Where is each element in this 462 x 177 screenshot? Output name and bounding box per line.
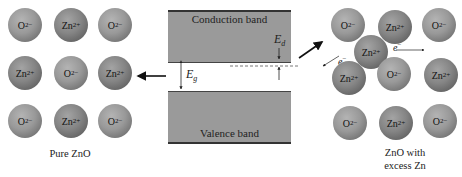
ion-charge: 2+ xyxy=(443,71,450,79)
ion-symbol: Zn xyxy=(386,22,397,33)
oxygen-ion: O2− xyxy=(377,57,411,91)
ion-charge: 2− xyxy=(71,69,78,77)
zinc-ion: Zn2+ xyxy=(379,106,413,140)
donor-level-symbol: Ed xyxy=(274,32,285,48)
ion-charge: 2− xyxy=(440,117,447,125)
ion-symbol: O xyxy=(387,69,394,80)
ion-charge: 2+ xyxy=(73,117,80,125)
ion-symbol: Zn xyxy=(362,47,373,58)
ion-symbol: O xyxy=(432,20,439,31)
ion-symbol: O xyxy=(64,68,71,79)
oxygen-ion: O2− xyxy=(98,104,132,138)
oxygen-ion: O2− xyxy=(331,8,365,42)
ion-charge: 2− xyxy=(348,21,355,29)
ion-charge: 2+ xyxy=(398,119,405,127)
ion-charge: 2− xyxy=(350,119,357,127)
ion-charge: 2+ xyxy=(397,23,404,31)
ion-symbol: O xyxy=(108,20,115,31)
ion-symbol: Zn xyxy=(387,118,398,129)
ion-symbol: Zn xyxy=(62,20,73,31)
ion-charge: 2− xyxy=(25,21,32,29)
caption-line-1: ZnO with xyxy=(360,146,450,159)
zinc-ion: Zn2+ xyxy=(8,56,42,90)
ion-symbol: Zn xyxy=(62,116,73,127)
ion-symbol: O xyxy=(343,118,350,129)
oxygen-ion: O2− xyxy=(98,8,132,42)
ion-symbol: Zn xyxy=(106,68,117,79)
oxygen-ion: O2− xyxy=(333,106,367,140)
zinc-ion: Zn2+ xyxy=(54,104,88,138)
zinc-ion: Zn2+ xyxy=(98,56,132,90)
ion-symbol: O xyxy=(18,20,25,31)
ion-charge: 2+ xyxy=(117,69,124,77)
ion-charge: 2+ xyxy=(373,48,380,56)
ion-symbol: O xyxy=(108,116,115,127)
oxygen-ion: O2− xyxy=(8,8,42,42)
excess-zn-caption: ZnO with excess Zn xyxy=(360,146,450,172)
ion-charge: 2+ xyxy=(27,69,34,77)
ion-charge: 2− xyxy=(25,117,32,125)
zinc-ion: Zn2+ xyxy=(378,10,412,44)
ion-charge: 2+ xyxy=(73,21,80,29)
oxygen-ion: O2− xyxy=(423,104,457,138)
oxygen-ion: O2− xyxy=(54,56,88,90)
ion-symbol: Zn xyxy=(16,68,27,79)
ion-charge: 2− xyxy=(394,70,401,78)
ion-symbol: O xyxy=(18,116,25,127)
ion-symbol: O xyxy=(433,116,440,127)
ion-charge: 2+ xyxy=(351,74,358,82)
zinc-ion: Zn2+ xyxy=(332,61,366,95)
ion-charge: 2− xyxy=(115,21,122,29)
band-gap-symbol: Eg xyxy=(186,67,197,83)
zinc-ion: Zn2+ xyxy=(54,8,88,42)
caption-line-2: excess Zn xyxy=(360,159,450,172)
ion-symbol: O xyxy=(341,20,348,31)
ion-charge: 2− xyxy=(439,21,446,29)
ion-symbol: Zn xyxy=(340,73,351,84)
ion-charge: 2− xyxy=(115,117,122,125)
zinc-ion: Zn2+ xyxy=(424,58,458,92)
ion-symbol: Zn xyxy=(432,70,443,81)
oxygen-ion: O2− xyxy=(422,8,456,42)
oxygen-ion: O2− xyxy=(8,104,42,138)
